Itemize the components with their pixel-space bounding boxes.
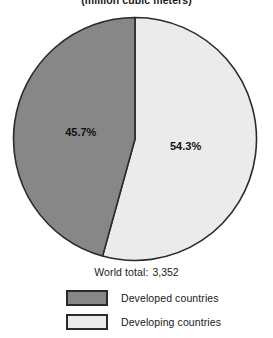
legend-item-developing[interactable]: Developing countries [0, 310, 273, 334]
pie-chart: 45.7% 54.3% [12, 16, 258, 262]
chart-subtitle: (million cubic meters) [0, 0, 273, 6]
legend-swatch-developed [66, 290, 108, 306]
legend-label-developed: Developed countries [121, 292, 219, 304]
pie-chart-svg: 45.7% 54.3% [12, 16, 258, 262]
pie-label-developed-percent: 45.7% [65, 126, 96, 138]
legend-swatch-developing [66, 314, 108, 330]
legend-item-developed[interactable]: Developed countries [0, 286, 273, 310]
chart-legend: Developed countries Developing countries [0, 286, 273, 334]
world-total: World total:3,352 [0, 266, 273, 278]
pie-label-developing-percent: 54.3% [170, 140, 201, 152]
world-total-value: 3,352 [152, 266, 178, 278]
world-total-label: World total: [94, 266, 148, 278]
legend-label-developing: Developing countries [121, 316, 221, 328]
